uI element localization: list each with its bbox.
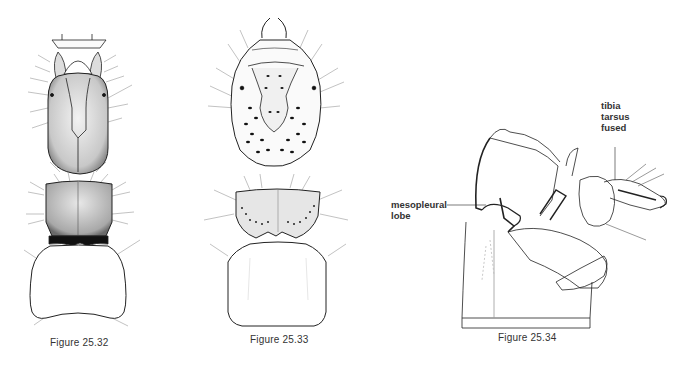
tibia-label: tibia: [601, 100, 630, 111]
tarsus-label: tarsus: [601, 111, 630, 122]
tibia-tarsus-fused-label: tibia tarsus fused: [601, 100, 630, 133]
figure-25-32-drawing: [24, 34, 140, 326]
mesopleural-label-line2: lobe: [391, 210, 447, 221]
mesopleural-lobe-label: mesopleural lobe: [391, 199, 447, 221]
mesopleural-label-line1: mesopleural: [391, 199, 447, 210]
figure-25-32-caption: Figure 25.32: [50, 337, 109, 348]
illustration-canvas: [0, 0, 675, 365]
figure-25-33-caption: Figure 25.33: [250, 334, 309, 345]
fused-label: fused: [601, 122, 630, 133]
figure-25-34-caption: Figure 25.34: [498, 332, 557, 343]
figure-25-34-drawing: [447, 129, 666, 328]
figure-25-33-drawing: [204, 18, 348, 326]
